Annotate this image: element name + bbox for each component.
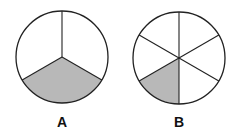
division-line — [179, 35, 219, 58]
circle-b — [133, 12, 225, 104]
shaded-sector — [22, 57, 102, 103]
division-line — [139, 35, 179, 58]
fraction-circles-diagram — [0, 0, 235, 134]
label-a: A — [57, 114, 67, 130]
shaded-sector — [139, 58, 179, 104]
label-b: B — [174, 114, 184, 130]
division-line — [179, 58, 219, 81]
circle-a — [16, 11, 108, 103]
